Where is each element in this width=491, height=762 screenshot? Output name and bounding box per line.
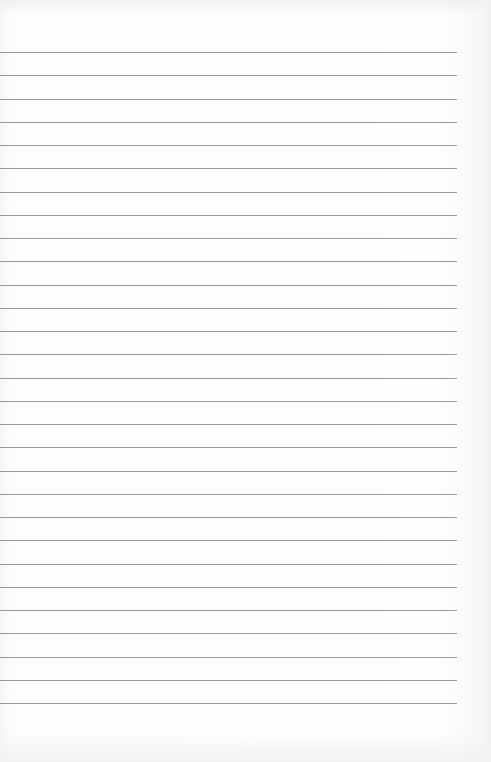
ruled-line	[0, 564, 457, 565]
ruled-line	[0, 703, 457, 704]
ruled-line	[0, 517, 457, 518]
ruled-line	[0, 215, 457, 216]
ruled-line	[0, 540, 457, 541]
ruled-line	[0, 633, 457, 634]
ruled-line	[0, 99, 457, 100]
lined-paper-page	[0, 0, 491, 762]
ruled-line	[0, 192, 457, 193]
ruled-line	[0, 308, 457, 309]
ruled-line	[0, 75, 457, 76]
ruled-line	[0, 354, 457, 355]
ruled-line	[0, 238, 457, 239]
ruled-line	[0, 52, 457, 53]
ruled-line	[0, 657, 457, 658]
ruled-line	[0, 285, 457, 286]
ruled-line	[0, 424, 457, 425]
ruled-line	[0, 680, 457, 681]
ruled-line	[0, 610, 457, 611]
ruled-line	[0, 447, 457, 448]
ruled-line	[0, 494, 457, 495]
ruled-line	[0, 331, 457, 332]
ruled-line	[0, 145, 457, 146]
ruled-line	[0, 122, 457, 123]
ruled-line	[0, 471, 457, 472]
ruled-line	[0, 378, 457, 379]
ruled-line	[0, 401, 457, 402]
ruled-line	[0, 261, 457, 262]
ruled-line	[0, 587, 457, 588]
ruled-line	[0, 168, 457, 169]
